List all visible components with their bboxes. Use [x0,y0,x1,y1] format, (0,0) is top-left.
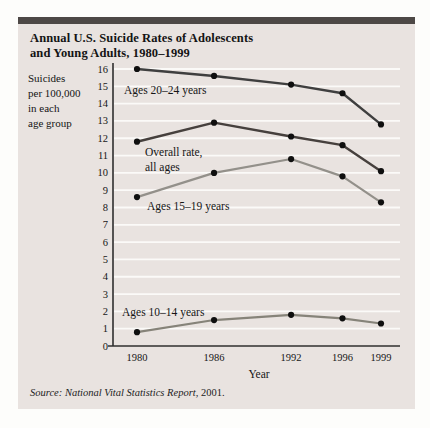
x-tick-label: 1986 [204,352,225,363]
line-chart: 0123456789101112131415161980198619921996… [18,17,415,409]
y-tick-label: 1 [103,323,108,334]
data-point [134,194,140,200]
data-point [339,142,345,148]
data-point [339,315,345,321]
x-tick-label: 1980 [127,352,148,363]
series-label: Ages 20–24 years [124,84,207,97]
source-note: Source: National Vital Statistics Report… [30,387,225,398]
x-tick-label: 1996 [332,352,353,363]
y-tick-label: 8 [103,202,108,213]
y-tick-label: 5 [103,254,108,265]
data-point [211,73,217,79]
data-point [134,329,140,335]
series-label: Overall rate, [145,146,203,159]
y-tick-label: 3 [103,289,108,300]
data-point [288,156,294,162]
data-point [378,320,384,326]
y-tick-label: 0 [103,341,108,352]
data-point [211,317,217,323]
data-point [378,199,384,205]
data-point [339,90,345,96]
y-tick-label: 9 [103,185,108,196]
data-point [288,133,294,139]
y-tick-label: 15 [98,81,109,92]
y-tick-label: 10 [98,167,109,178]
y-tick-label: 14 [98,98,109,109]
y-tick-label: 11 [98,150,108,161]
y-tick-label: 4 [103,271,109,282]
data-point [339,173,345,179]
series-line-0 [137,69,381,124]
y-tick-label: 13 [98,115,109,126]
data-point [288,81,294,87]
data-point [378,168,384,174]
y-tick-label: 7 [103,219,108,230]
series-label: Ages 15–19 years [147,200,230,213]
data-point [288,312,294,318]
data-point [134,139,140,145]
source-year: 2001. [198,387,224,398]
x-axis-title: Year [248,368,269,380]
y-tick-label: 6 [103,237,108,248]
data-point [134,66,140,72]
x-tick-label: 1992 [281,352,302,363]
data-point [211,170,217,176]
x-tick-label: 1999 [370,352,391,363]
y-tick-label: 12 [98,133,109,144]
y-tick-label: 16 [98,64,109,75]
data-point [378,121,384,127]
y-tick-label: 2 [103,306,108,317]
source-text: Source: National Vital Statistics Report… [30,387,198,398]
series-label: all ages [145,161,180,174]
series-label: Ages 10–14 years [122,306,205,319]
figure-panel: Annual U.S. Suicide Rates of Adolescents… [18,17,415,409]
data-point [211,120,217,126]
